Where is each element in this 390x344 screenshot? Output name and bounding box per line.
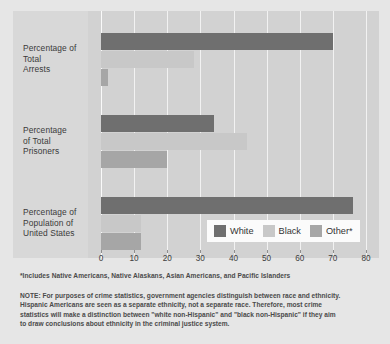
- bar-group: [88, 33, 379, 86]
- bar-black: [101, 51, 194, 68]
- category-label-line: Percentage: [23, 125, 87, 136]
- chart-page: Percentage ofTotalArrestsPercentageof To…: [0, 0, 390, 344]
- x-tick-label: 80: [361, 254, 370, 263]
- x-tick-label: 50: [262, 254, 271, 263]
- chart-note-line: NOTE: For purposes of crime statistics, …: [20, 291, 350, 300]
- legend-swatch-other-icon: [310, 225, 322, 237]
- x-tick-label: 0: [99, 254, 104, 263]
- category-label: Percentageof TotalPrisoners: [23, 125, 87, 157]
- chart-footnote: *Includes Native Americans, Native Alask…: [20, 271, 370, 280]
- legend-item-white: White: [214, 225, 254, 237]
- category-label-line: Arrests: [23, 64, 87, 75]
- chart-legend: White Black Other*: [207, 220, 360, 242]
- chart-note-line: Hispanic Americans are seen as a separat…: [20, 300, 350, 309]
- x-tick-mark: [366, 250, 367, 253]
- x-tick-mark: [101, 250, 102, 253]
- bar-group: [88, 115, 379, 168]
- x-tick-mark: [234, 250, 235, 253]
- x-tick-mark: [333, 250, 334, 253]
- x-tick-mark: [200, 250, 201, 253]
- x-tick-mark: [167, 250, 168, 253]
- legend-item-other: Other*: [310, 225, 353, 237]
- bar-black: [101, 133, 247, 150]
- bar-black: [101, 215, 141, 232]
- x-tick-label: 40: [229, 254, 238, 263]
- category-label-line: United States: [23, 228, 87, 239]
- category-label: Percentage ofPopulation ofUnited States: [23, 207, 87, 239]
- legend-label-white: White: [230, 226, 254, 236]
- legend-swatch-white-icon: [214, 225, 226, 237]
- category-label-line: of Total: [23, 136, 87, 147]
- category-label-line: Total: [23, 54, 87, 65]
- x-tick-label: 60: [295, 254, 304, 263]
- x-tick-mark: [134, 250, 135, 253]
- legend-label-black: Black: [279, 226, 301, 236]
- legend-item-black: Black: [263, 225, 301, 237]
- category-label-line: Percentage of: [23, 207, 87, 218]
- bar-other: [101, 69, 108, 86]
- x-tick-label: 10: [130, 254, 139, 263]
- legend-swatch-black-icon: [263, 225, 275, 237]
- chart-note-line: statistics will make a distinction betwe…: [20, 310, 350, 319]
- category-label-line: Percentage of: [23, 43, 87, 54]
- legend-label-other: Other*: [326, 226, 353, 236]
- chart-note: NOTE: For purposes of crime statistics, …: [20, 291, 350, 328]
- bar-other: [101, 151, 167, 168]
- bar-white: [101, 197, 353, 214]
- bar-white: [101, 115, 214, 132]
- bar-white: [101, 33, 333, 50]
- category-label-line: Prisoners: [23, 146, 87, 157]
- x-tick-mark: [267, 250, 268, 253]
- category-label-line: Population of: [23, 218, 87, 229]
- bar-other: [101, 233, 141, 250]
- x-tick-mark: [300, 250, 301, 253]
- x-tick-label: 30: [196, 254, 205, 263]
- x-tick-label: 70: [328, 254, 337, 263]
- category-label: Percentage ofTotalArrests: [23, 43, 87, 75]
- chart-note-line: to draw conclusions about ethnicity in t…: [20, 319, 350, 328]
- x-tick-label: 20: [163, 254, 172, 263]
- x-axis: 01020304050607080: [13, 250, 379, 266]
